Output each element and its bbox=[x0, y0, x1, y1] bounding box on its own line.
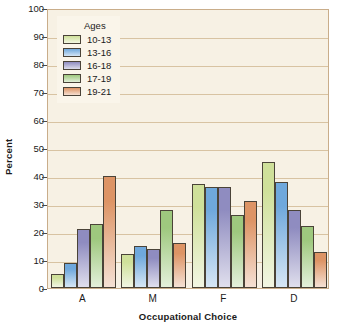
y-axis-tickmark bbox=[42, 205, 47, 206]
y-axis-tick: 0 bbox=[18, 284, 44, 294]
y-axis-tickmark bbox=[42, 289, 47, 290]
legend-item-16-18: 16-18 bbox=[63, 59, 111, 72]
bar-group-f bbox=[192, 10, 257, 288]
legend-swatch-13-16 bbox=[63, 48, 81, 57]
legend-swatch-17-19 bbox=[63, 74, 81, 83]
y-axis-tick: 60 bbox=[18, 116, 44, 126]
legend-item-17-19: 17-19 bbox=[63, 72, 111, 85]
bar-m-19-21 bbox=[173, 243, 186, 288]
bar-a-16-18 bbox=[77, 229, 90, 288]
bar-f-10-13 bbox=[192, 184, 205, 288]
legend-label: 17-19 bbox=[87, 74, 111, 83]
legend-entries: 10-1313-1616-1817-1919-21 bbox=[63, 33, 111, 98]
y-axis-tick: 10 bbox=[18, 256, 44, 266]
y-axis-tick: 70 bbox=[18, 88, 44, 98]
bar-m-17-19 bbox=[160, 210, 173, 288]
y-axis-tick: 90 bbox=[18, 32, 44, 42]
y-axis-tickmark bbox=[42, 149, 47, 150]
legend: Ages 10-1313-1616-1817-1919-21 bbox=[57, 16, 120, 103]
x-axis-label: Occupational Choice bbox=[47, 311, 329, 322]
y-axis-tickmark bbox=[42, 93, 47, 94]
bar-group-d bbox=[262, 10, 327, 288]
y-axis-tick: 40 bbox=[18, 172, 44, 182]
bar-a-17-19 bbox=[90, 224, 103, 288]
x-axis-tick-f: F bbox=[203, 293, 243, 304]
bar-f-16-18 bbox=[218, 187, 231, 288]
bar-d-19-21 bbox=[314, 252, 327, 288]
bar-f-13-16 bbox=[205, 187, 218, 288]
bar-a-13-16 bbox=[64, 263, 77, 288]
y-axis-tickmark bbox=[42, 37, 47, 38]
bar-a-10-13 bbox=[51, 274, 64, 288]
y-axis-tickmark bbox=[42, 177, 47, 178]
legend-item-19-21: 19-21 bbox=[63, 85, 111, 98]
x-axis-tick-m: M bbox=[133, 293, 173, 304]
y-axis-tickmark bbox=[42, 65, 47, 66]
x-axis-tick-a: A bbox=[62, 293, 102, 304]
legend-label: 13-16 bbox=[87, 48, 111, 57]
bar-a-19-21 bbox=[103, 176, 116, 288]
bar-chart: Percent 1009080706050403020100 Occupatio… bbox=[0, 0, 337, 333]
legend-swatch-19-21 bbox=[63, 87, 81, 96]
bar-d-17-19 bbox=[301, 226, 314, 288]
y-axis-tickmark bbox=[42, 233, 47, 234]
bar-m-13-16 bbox=[134, 246, 147, 288]
y-axis-tick: 100 bbox=[18, 4, 44, 14]
y-axis-tick: 50 bbox=[18, 144, 44, 154]
y-axis-tickmark bbox=[42, 261, 47, 262]
bar-d-13-16 bbox=[275, 182, 288, 288]
legend-swatch-10-13 bbox=[63, 35, 81, 44]
bar-d-10-13 bbox=[262, 162, 275, 288]
y-axis-tick: 30 bbox=[18, 200, 44, 210]
legend-label: 10-13 bbox=[87, 35, 111, 44]
x-axis-tick-d: D bbox=[274, 293, 314, 304]
legend-label: 19-21 bbox=[87, 87, 111, 96]
y-axis-tick-labels: 1009080706050403020100 bbox=[14, 0, 44, 333]
bar-m-10-13 bbox=[121, 254, 134, 288]
bar-m-16-18 bbox=[147, 249, 160, 288]
legend-item-13-16: 13-16 bbox=[63, 46, 111, 59]
legend-title: Ages bbox=[84, 20, 111, 31]
y-axis-tickmark bbox=[42, 121, 47, 122]
legend-label: 16-18 bbox=[87, 61, 111, 70]
legend-item-10-13: 10-13 bbox=[63, 33, 111, 46]
y-axis-tickmark bbox=[42, 9, 47, 10]
bar-f-17-19 bbox=[231, 215, 244, 288]
bar-f-19-21 bbox=[244, 201, 257, 288]
bar-d-16-18 bbox=[288, 210, 301, 288]
bar-group-m bbox=[121, 10, 186, 288]
y-axis-tick: 80 bbox=[18, 60, 44, 70]
y-axis-tick: 20 bbox=[18, 228, 44, 238]
legend-swatch-16-18 bbox=[63, 61, 81, 70]
